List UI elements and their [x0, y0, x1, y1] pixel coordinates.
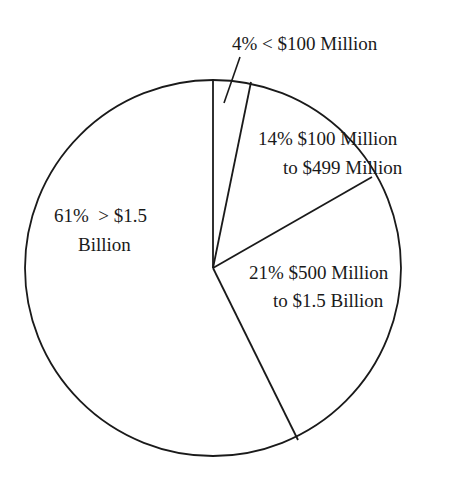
slice-label-100m-499m-line1: 14% $100 Million [258, 128, 398, 149]
slice-label-over-1_5b-line2: Billion [78, 234, 131, 255]
pie-chart: 4% < $100 Million 14% $100 Million to $4… [0, 0, 471, 483]
slice-label-over-1_5b-line1: 61% > $1.5 [54, 205, 147, 226]
slice-label-under-100m: 4% < $100 Million [232, 33, 378, 54]
slice-label-500m-1_5b-line1: 21% $500 Million [249, 262, 389, 283]
slice-label-100m-499m-line2: to $499 Million [283, 157, 403, 178]
slice-label-500m-1_5b-line2: to $1.5 Billion [273, 290, 384, 311]
